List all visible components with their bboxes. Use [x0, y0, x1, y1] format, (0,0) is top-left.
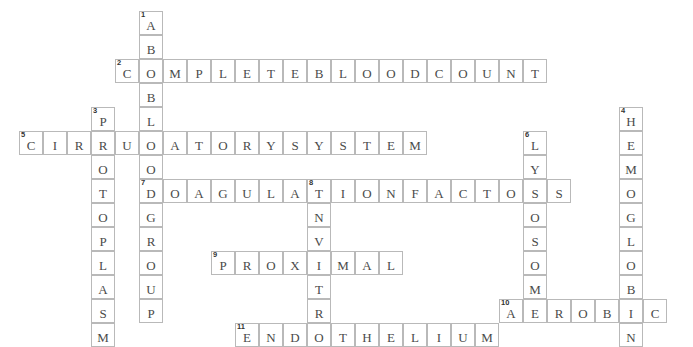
crossword-cell[interactable]: B [595, 299, 619, 323]
crossword-cell[interactable]: R [235, 251, 259, 275]
crossword-cell[interactable]: T [187, 131, 211, 155]
crossword-cell[interactable]: 6L [523, 131, 547, 155]
crossword-cell[interactable]: F [403, 179, 427, 203]
crossword-cell[interactable]: O [259, 251, 283, 275]
crossword-cell[interactable]: A [283, 179, 307, 203]
crossword-cell[interactable]: R [235, 131, 259, 155]
crossword-cell[interactable]: N [619, 323, 643, 347]
crossword-cell[interactable]: O [91, 203, 115, 227]
crossword-cell[interactable]: A [187, 179, 211, 203]
crossword-cell[interactable]: I [427, 323, 451, 347]
crossword-cell[interactable]: Y [307, 131, 331, 155]
crossword-cell[interactable]: L [619, 227, 643, 251]
crossword-cell[interactable]: L [139, 107, 163, 131]
crossword-cell[interactable]: C [643, 299, 667, 323]
crossword-cell[interactable]: O [619, 179, 643, 203]
crossword-cell[interactable]: O [139, 155, 163, 179]
crossword-cell[interactable]: E [283, 59, 307, 83]
crossword-cell[interactable]: G [211, 179, 235, 203]
crossword-cell[interactable]: G [139, 203, 163, 227]
crossword-cell[interactable]: E [379, 131, 403, 155]
crossword-cell[interactable]: 8T [307, 179, 331, 203]
crossword-cell[interactable]: U [451, 323, 475, 347]
crossword-cell[interactable]: E [523, 299, 547, 323]
crossword-cell[interactable]: 7D [139, 179, 163, 203]
crossword-cell[interactable]: 10A [499, 299, 523, 323]
crossword-cell[interactable]: T [475, 179, 499, 203]
crossword-cell[interactable]: O [355, 179, 379, 203]
crossword-cell[interactable]: P [91, 227, 115, 251]
crossword-cell[interactable]: O [211, 131, 235, 155]
crossword-cell[interactable]: O [523, 203, 547, 227]
crossword-cell[interactable]: 11E [235, 323, 259, 347]
crossword-cell[interactable]: T [331, 323, 355, 347]
crossword-cell[interactable]: O [139, 251, 163, 275]
crossword-cell[interactable]: O [163, 179, 187, 203]
crossword-cell[interactable]: O [139, 131, 163, 155]
crossword-cell[interactable]: X [283, 251, 307, 275]
crossword-cell[interactable]: M [475, 323, 499, 347]
crossword-cell[interactable]: O [523, 251, 547, 275]
crossword-cell[interactable]: M [331, 251, 355, 275]
crossword-cell[interactable]: M [163, 59, 187, 83]
crossword-cell[interactable]: S [523, 179, 547, 203]
crossword-cell[interactable]: A [91, 275, 115, 299]
crossword-cell[interactable]: O [451, 59, 475, 83]
crossword-cell[interactable]: R [91, 131, 115, 155]
crossword-cell[interactable]: I [43, 131, 67, 155]
crossword-cell[interactable]: R [139, 227, 163, 251]
crossword-cell[interactable]: R [307, 299, 331, 323]
crossword-cell[interactable]: D [403, 59, 427, 83]
crossword-cell[interactable]: S [91, 299, 115, 323]
crossword-cell[interactable]: P [187, 59, 211, 83]
crossword-cell[interactable]: I [331, 179, 355, 203]
crossword-cell[interactable]: T [259, 59, 283, 83]
crossword-cell[interactable]: T [307, 275, 331, 299]
crossword-cell[interactable]: A [355, 251, 379, 275]
crossword-cell[interactable]: N [379, 179, 403, 203]
crossword-cell[interactable]: O [307, 323, 331, 347]
crossword-cell[interactable]: O [91, 155, 115, 179]
crossword-cell[interactable]: S [283, 131, 307, 155]
crossword-cell[interactable]: E [235, 59, 259, 83]
crossword-cell[interactable]: 9P [211, 251, 235, 275]
crossword-cell[interactable]: C [427, 59, 451, 83]
crossword-cell[interactable]: O [139, 59, 163, 83]
crossword-cell[interactable]: E [619, 131, 643, 155]
crossword-cell[interactable]: B [307, 59, 331, 83]
crossword-cell[interactable]: B [139, 83, 163, 107]
crossword-cell[interactable]: A [163, 131, 187, 155]
crossword-cell[interactable]: 2C [115, 59, 139, 83]
crossword-cell[interactable]: 3P [91, 107, 115, 131]
crossword-cell[interactable]: L [259, 179, 283, 203]
crossword-cell[interactable]: N [307, 203, 331, 227]
crossword-cell[interactable]: S [547, 179, 571, 203]
crossword-cell[interactable]: O [619, 251, 643, 275]
crossword-cell[interactable]: O [379, 59, 403, 83]
crossword-cell[interactable]: E [379, 323, 403, 347]
crossword-cell[interactable]: O [499, 179, 523, 203]
crossword-cell[interactable]: S [523, 227, 547, 251]
crossword-cell[interactable]: M [523, 275, 547, 299]
crossword-cell[interactable]: R [67, 131, 91, 155]
crossword-cell[interactable]: 5C [19, 131, 43, 155]
crossword-cell[interactable]: S [331, 131, 355, 155]
crossword-cell[interactable]: G [619, 203, 643, 227]
crossword-cell[interactable]: L [379, 251, 403, 275]
crossword-cell[interactable]: H [355, 323, 379, 347]
crossword-cell[interactable]: T [523, 59, 547, 83]
crossword-cell[interactable]: Y [259, 131, 283, 155]
crossword-cell[interactable]: N [499, 59, 523, 83]
crossword-cell[interactable]: U [115, 131, 139, 155]
crossword-cell[interactable]: R [547, 299, 571, 323]
crossword-cell[interactable]: 1A [139, 11, 163, 35]
crossword-cell[interactable]: L [331, 59, 355, 83]
crossword-cell[interactable]: Y [523, 155, 547, 179]
crossword-cell[interactable]: A [427, 179, 451, 203]
crossword-cell[interactable]: B [139, 35, 163, 59]
crossword-cell[interactable]: T [91, 179, 115, 203]
crossword-cell[interactable]: V [307, 227, 331, 251]
crossword-cell[interactable]: 4H [619, 107, 643, 131]
crossword-cell[interactable]: I [307, 251, 331, 275]
crossword-cell[interactable]: O [571, 299, 595, 323]
